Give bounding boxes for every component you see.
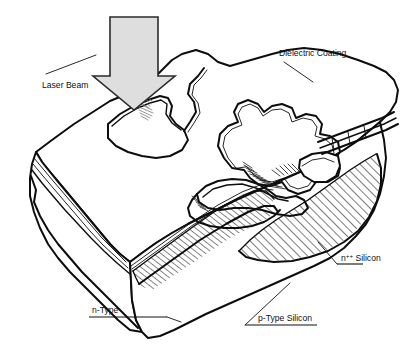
n-plus-plus-silicon-label: n++ Silicon <box>341 252 381 263</box>
laser-ablation-diagram: Laser Beam Dielectric Coating n++ Silico… <box>0 0 416 348</box>
coating-flap-shape <box>299 152 340 182</box>
label-laser-beam: Laser Beam <box>42 55 96 90</box>
n-plus-plus-tail: Silicon <box>353 253 381 263</box>
coating-flap <box>299 152 340 182</box>
laser-beam-leader <box>46 55 96 74</box>
p-type-silicon-label: p-Type Silicon <box>258 313 312 323</box>
n-type-label: n-Type <box>92 305 118 315</box>
figure-root: Laser Beam Dielectric Coating n++ Silico… <box>0 0 416 348</box>
laser-beam-label: Laser Beam <box>42 80 88 90</box>
dielectric-coating-label: Dielectric Coating <box>279 48 347 58</box>
